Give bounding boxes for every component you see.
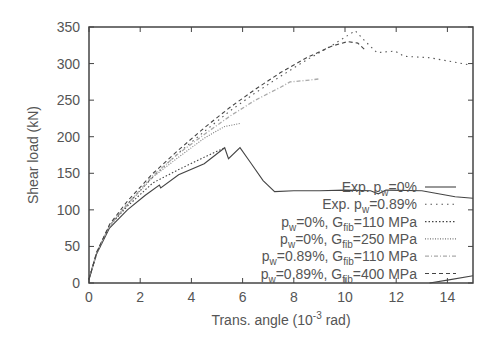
y-tick-label: 50: [64, 238, 80, 254]
x-tick-label: 0: [85, 289, 93, 305]
x-tick-label: 14: [440, 289, 456, 305]
chart: 02468101214050100150200250300350 Shear l…: [0, 0, 497, 352]
x-tick-label: 8: [290, 289, 298, 305]
series-line-6: [430, 276, 474, 283]
x-axis-label: Trans. angle (10-3 rad): [211, 310, 350, 328]
y-tick-label: 300: [57, 56, 81, 72]
y-tick-label: 0: [72, 275, 80, 291]
legend-label-4: pw=0.89%, Gfib=110 MPa: [262, 248, 418, 267]
x-tick-label: 6: [239, 289, 247, 305]
x-tick-label: 10: [337, 289, 353, 305]
y-axis-label: Shear load (kN): [25, 106, 41, 204]
y-tick-label: 350: [57, 19, 81, 35]
legend-label-2: pw=0%, Gfib=110 MPa: [281, 214, 417, 233]
x-tick-label: 2: [136, 289, 144, 305]
legend-label-3: pw=0%, Gfib=250 MPa: [280, 231, 417, 250]
y-tick-label: 100: [57, 202, 81, 218]
series-line-2: [89, 148, 225, 280]
y-tick-label: 200: [57, 129, 81, 145]
y-tick-label: 250: [57, 92, 81, 108]
y-tick-label: 150: [57, 165, 81, 181]
x-tick-label: 4: [188, 289, 196, 305]
x-tick-label: 12: [388, 289, 404, 305]
legend-label-5: pw=0.89%, Gfib=400 MPa: [261, 266, 418, 285]
series-line-3: [89, 124, 240, 280]
legend-label-0: Exp. pw=0%: [342, 179, 417, 198]
legend-label-1: Exp. pw=0.89%: [322, 196, 417, 215]
legend: Exp. pw=0%Exp. pw=0.89%pw=0%, Gfib=110 M…: [261, 179, 456, 285]
